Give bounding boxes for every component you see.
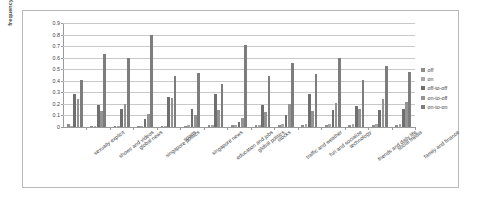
bar: [244, 45, 247, 127]
bar: [80, 80, 83, 127]
y-tick-mark: [61, 127, 63, 128]
bar: [103, 54, 106, 127]
bar-group: [227, 23, 250, 127]
bar: [161, 126, 164, 127]
bar: [171, 98, 174, 127]
bar: [214, 94, 217, 128]
bar: [264, 112, 267, 127]
bar: [73, 94, 76, 128]
bar-group: [180, 23, 203, 127]
bar: [308, 94, 311, 128]
bar: [97, 105, 100, 127]
bar: [378, 110, 381, 127]
bar: [70, 126, 73, 127]
x-axis-label: family and finance: [422, 129, 460, 159]
bar: [385, 66, 388, 127]
bar: [261, 105, 264, 127]
bar: [258, 125, 261, 127]
y-tick-label: 0.5: [53, 66, 61, 72]
legend-item: on-to-on: [421, 104, 447, 110]
y-tick-label: 0.9: [53, 20, 61, 26]
bar: [395, 125, 398, 127]
legend-label: on-to-off: [428, 95, 448, 101]
bar: [348, 125, 351, 127]
bar-group: [63, 23, 86, 127]
bar-group: [110, 23, 133, 127]
bar: [335, 103, 338, 127]
bar: [77, 99, 80, 127]
legend-swatch-icon: [421, 68, 425, 72]
legend-label: on-to-on: [428, 104, 448, 110]
bar-group: [86, 23, 109, 127]
y-tick-label: 0.4: [53, 78, 61, 84]
bar: [194, 115, 197, 127]
bar-group: [204, 23, 227, 127]
y-tick-label: 0: [57, 124, 60, 130]
bar-group: [133, 23, 156, 127]
bar: [67, 124, 70, 127]
bar: [144, 119, 147, 127]
legend-item: on: [421, 76, 447, 82]
bar: [325, 125, 328, 127]
bar: [147, 114, 150, 127]
bar: [311, 111, 314, 127]
plot-area: 00.10.20.30.40.50.60.70.80.9: [63, 23, 415, 127]
bar: [281, 124, 284, 127]
bar-group: [298, 23, 321, 127]
x-axis-labels: sexually explicitshows and videosglobal …: [63, 129, 415, 200]
y-tick-label: 0.3: [53, 89, 61, 95]
bar: [285, 115, 288, 127]
bar: [352, 124, 355, 127]
bar: [174, 76, 177, 127]
y-tick-label: 0.7: [53, 43, 61, 49]
bar: [184, 126, 187, 127]
bar-group: [392, 23, 415, 127]
bar: [382, 99, 385, 127]
bar: [358, 109, 361, 127]
bar-group: [321, 23, 344, 127]
chart-frame: frequency (in %) 00.10.20.30.40.50.60.70…: [22, 10, 459, 188]
legend-item: off: [421, 67, 447, 73]
legend-label: on: [428, 76, 434, 82]
legend-label: off: [428, 67, 434, 73]
legend-swatch-icon: [421, 96, 425, 100]
bar-group: [368, 23, 391, 127]
bar: [362, 80, 365, 127]
bar: [211, 125, 214, 127]
bar: [278, 125, 281, 127]
bar: [372, 125, 375, 127]
y-tick-label: 0.6: [53, 55, 61, 61]
bar: [405, 102, 408, 127]
bar: [355, 106, 358, 127]
bar: [328, 124, 331, 127]
bar: [255, 125, 258, 127]
bar: [338, 58, 341, 127]
bar: [301, 125, 304, 127]
bar: [375, 124, 378, 127]
bar: [197, 73, 200, 127]
bar: [241, 118, 244, 127]
bar: [127, 58, 130, 127]
bar-group: [345, 23, 368, 127]
bar: [137, 126, 140, 127]
bar-group: [157, 23, 180, 127]
bar: [208, 125, 211, 127]
bar: [94, 126, 97, 127]
y-tick-label: 0.8: [53, 32, 61, 38]
bar: [90, 126, 93, 127]
bar: [191, 109, 194, 127]
bar: [114, 126, 117, 127]
y-tick-label: 0.1: [53, 112, 61, 118]
legend-swatch-icon: [421, 105, 425, 109]
bar: [408, 72, 411, 127]
legend-item: on-to-off: [421, 95, 447, 101]
bar: [305, 124, 308, 127]
bar: [120, 109, 123, 127]
chart-legend: offonoff-to-offon-to-offon-to-on: [421, 67, 447, 110]
legend-swatch-icon: [421, 86, 425, 90]
bar: [150, 35, 153, 127]
bar: [288, 104, 291, 127]
legend-swatch-icon: [421, 77, 425, 81]
bar: [234, 125, 237, 127]
bar: [167, 97, 170, 127]
